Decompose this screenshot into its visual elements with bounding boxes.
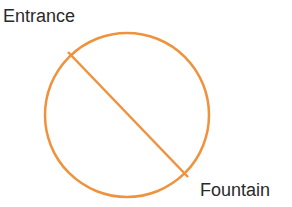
diameter-line xyxy=(68,52,188,177)
entrance-label: Entrance xyxy=(3,6,75,27)
circle-diagram xyxy=(0,0,292,207)
fountain-label: Fountain xyxy=(200,180,270,201)
